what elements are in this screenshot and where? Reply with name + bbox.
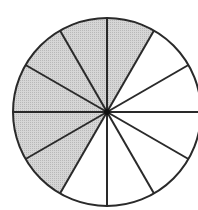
fraction-circle — [0, 0, 198, 210]
center-point — [104, 109, 110, 115]
